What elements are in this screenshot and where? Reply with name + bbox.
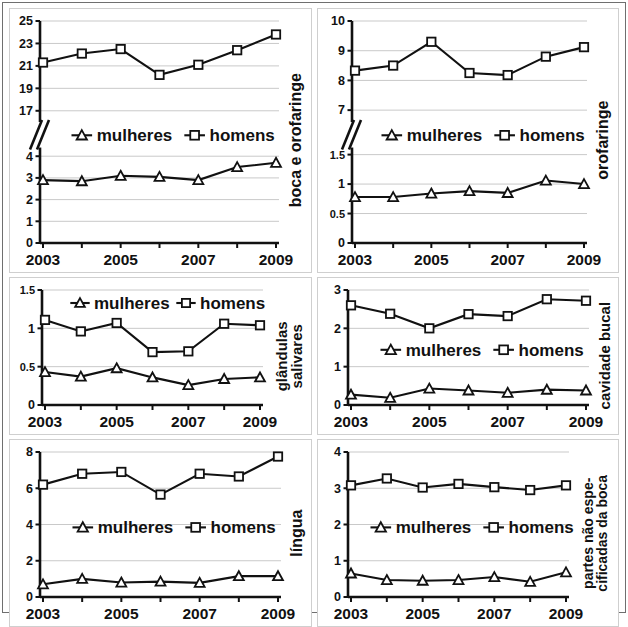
y-tick-label: 3 xyxy=(26,171,33,185)
plot-area-cavidade-bucal: 01232003200520072009mulhereshomens xyxy=(318,278,619,434)
x-tick-label: 2003 xyxy=(337,251,372,268)
y-axis-title-text: língua xyxy=(289,509,305,556)
chart-legend: mulhereshomens xyxy=(381,126,584,145)
series-homens xyxy=(39,452,282,498)
legend-label-mulheres: mulheres xyxy=(97,126,173,145)
legend-label-mulheres: mulheres xyxy=(94,294,170,313)
data-point-mulheres xyxy=(219,374,229,383)
y-tick-label: 1 xyxy=(334,360,341,374)
legend-label-homens: homens xyxy=(519,126,584,145)
data-point-homens xyxy=(274,452,282,460)
y-tick-label: 17 xyxy=(19,104,33,118)
data-point-homens xyxy=(39,58,47,66)
y-tick-label: 0 xyxy=(338,236,345,250)
series-mulheres xyxy=(38,158,281,185)
data-point-homens xyxy=(155,71,163,79)
data-point-homens xyxy=(425,324,433,332)
chart-panel-grid: 1719212325012342003200520072009mulheresh… xyxy=(3,3,625,612)
y-axis-title-text: boca e orofaringe xyxy=(288,73,304,207)
data-point-homens xyxy=(503,71,511,79)
chart-legend: mulhereshomens xyxy=(370,518,573,537)
legend-square-open-marker xyxy=(182,299,190,307)
data-point-homens xyxy=(464,310,472,318)
data-point-mulheres xyxy=(116,171,126,180)
data-point-homens xyxy=(581,297,589,305)
legend-square-open-marker xyxy=(489,523,498,532)
data-point-homens xyxy=(77,327,85,335)
chart-panel-cavidade-bucal: 01232003200520072009mulhereshomens cavid… xyxy=(317,277,620,435)
y-axis-title-boca-e-orofaringe: boca e orofaringe xyxy=(284,9,310,272)
series-mulheres xyxy=(38,571,283,588)
data-point-mulheres xyxy=(453,575,463,584)
data-point-homens xyxy=(156,490,164,498)
data-point-homens xyxy=(78,49,86,57)
y-axis-title-text: partes não espe-cificadas da boca xyxy=(581,475,610,592)
data-point-mulheres xyxy=(156,577,166,586)
data-point-mulheres xyxy=(525,577,535,586)
data-point-mulheres xyxy=(232,162,242,171)
legend-label-mulheres: mulheres xyxy=(98,518,174,537)
data-point-homens xyxy=(117,468,125,476)
data-point-mulheres xyxy=(273,571,283,580)
series-homens xyxy=(41,316,264,357)
legend-label-homens: homens xyxy=(211,518,276,537)
y-tick-label: 8 xyxy=(338,74,345,88)
legend-label-mulheres: mulheres xyxy=(406,126,482,145)
series-homens xyxy=(39,30,280,79)
chart-legend: mulhereshomens xyxy=(71,126,274,145)
y-axis-title-lingua: língua xyxy=(286,440,310,626)
data-point-mulheres xyxy=(116,578,126,587)
y-tick-label: 21 xyxy=(19,59,33,73)
data-point-mulheres xyxy=(489,572,499,581)
data-point-homens xyxy=(561,481,569,489)
y-tick-label: 3 xyxy=(334,283,341,297)
data-point-homens xyxy=(525,486,533,494)
data-point-homens xyxy=(503,312,511,320)
y-tick-label: 1 xyxy=(26,215,33,229)
data-point-homens xyxy=(41,316,49,324)
data-point-mulheres xyxy=(385,393,395,402)
x-tick-label: 2005 xyxy=(104,605,139,622)
y-axis-title-glandulas-salivares: glândulassalivares xyxy=(268,278,310,434)
y-tick-label: 0 xyxy=(26,236,33,250)
legend-label-homens: homens xyxy=(508,518,573,537)
data-point-homens xyxy=(385,310,393,318)
data-point-homens xyxy=(490,483,498,491)
data-point-mulheres xyxy=(579,179,589,188)
legend-label-homens: homens xyxy=(210,126,275,145)
chart-legend: mulhereshomens xyxy=(72,518,275,537)
x-tick-label: 2007 xyxy=(490,413,524,430)
data-point-mulheres xyxy=(463,385,473,394)
y-axis-title-text: cavidade bucal xyxy=(597,302,612,410)
x-tick-label: 2005 xyxy=(405,605,440,622)
chart-panel-partes-nao-especificadas-da-boca: 012342003200520072009mulhereshomens part… xyxy=(317,439,620,627)
data-point-mulheres xyxy=(581,385,591,394)
legend-square-open-marker xyxy=(499,345,508,354)
data-point-mulheres xyxy=(561,567,571,576)
data-point-homens xyxy=(388,61,396,69)
y-tick-label: 7 xyxy=(338,103,345,117)
data-point-homens xyxy=(272,30,280,38)
legend-label-homens: homens xyxy=(518,341,583,360)
data-point-homens xyxy=(465,69,473,77)
y-tick-label: 0 xyxy=(28,398,35,412)
y-tick-label: 2 xyxy=(334,518,341,532)
y-tick-label: 1 xyxy=(338,177,345,191)
y-tick-label: 0.5 xyxy=(20,361,35,373)
x-tick-label: 2007 xyxy=(477,605,511,622)
data-point-homens xyxy=(233,46,241,54)
y-axis-title-text: orofaringe xyxy=(596,101,612,180)
data-point-mulheres xyxy=(193,175,203,184)
legend-label-homens: homens xyxy=(200,294,265,313)
x-tick-label: 2003 xyxy=(333,413,368,430)
data-point-homens xyxy=(350,66,358,74)
legend-square-open-marker xyxy=(191,523,200,532)
x-tick-label: 2003 xyxy=(28,413,63,430)
y-tick-label: 4 xyxy=(334,445,341,459)
legend-label-mulheres: mulheres xyxy=(405,341,481,360)
y-tick-label: 3 xyxy=(334,482,341,496)
chart-panel-orofaringe: 7891000.511.52003200520072009mulhereshom… xyxy=(317,8,620,273)
x-tick-label: 2005 xyxy=(99,413,134,430)
data-point-homens xyxy=(541,52,549,60)
data-point-homens xyxy=(112,319,120,327)
